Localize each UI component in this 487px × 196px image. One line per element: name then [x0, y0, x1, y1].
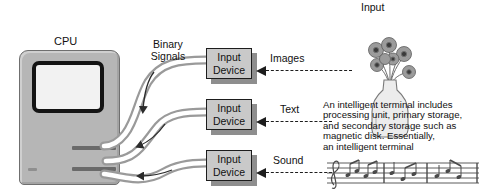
diagram-canvas: CPU Binary Signals Input Device I	[0, 0, 487, 196]
musical-staff-icon	[0, 0, 487, 196]
